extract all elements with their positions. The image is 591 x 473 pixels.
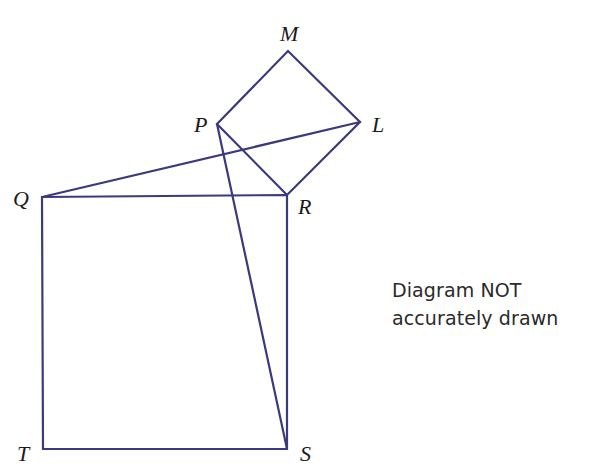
vertex-label-q: Q (13, 186, 29, 211)
vertex-label-p: P (193, 112, 207, 137)
note-line-2: accurately drawn (392, 304, 558, 332)
vertex-label-l: L (371, 112, 384, 137)
segment-ps (217, 124, 287, 449)
vertex-label-m: M (279, 21, 300, 46)
geometry-diagram: M P L R Q T S (0, 0, 591, 473)
square-pmlr (217, 51, 360, 195)
note-line-1: Diagram NOT (392, 276, 558, 304)
square-qrst (42, 195, 287, 449)
vertex-label-t: T (17, 441, 31, 466)
vertex-label-s: S (300, 441, 311, 466)
vertex-label-r: R (297, 194, 312, 219)
not-accurately-drawn-note: Diagram NOT accurately drawn (392, 276, 558, 332)
